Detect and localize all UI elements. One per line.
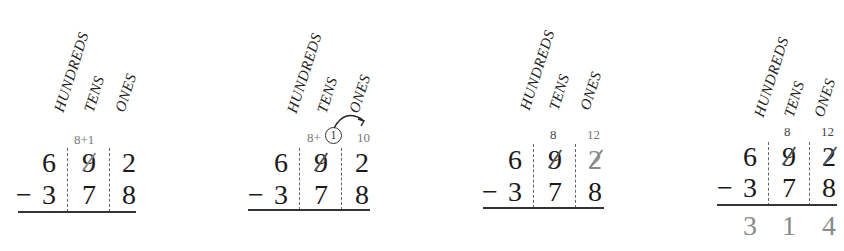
minuend-hundreds: 6 bbox=[37, 149, 61, 177]
ones-annotation: 10 bbox=[357, 131, 370, 144]
subtrahend-ones: 8 bbox=[583, 178, 607, 206]
minuend-hundreds: 6 bbox=[269, 149, 293, 177]
tens-borrow-prefix: 8+ bbox=[307, 131, 321, 144]
step-4-panel: HUNDREDS TENS ONES 8 12 6 9 2 − 3 7 8 3 … bbox=[633, 0, 844, 251]
answer-rule bbox=[717, 204, 837, 206]
ones-annotation: 12 bbox=[587, 128, 600, 141]
subtrahend-hundreds: 3 bbox=[503, 178, 527, 206]
minuend-hundreds: 6 bbox=[503, 146, 527, 174]
answer-rule bbox=[18, 211, 136, 213]
column-divider-2 bbox=[809, 142, 810, 206]
header-tens: TENS bbox=[82, 74, 108, 114]
column-divider-2 bbox=[341, 148, 342, 210]
subtrahend-tens: 7 bbox=[543, 178, 567, 206]
answer-rule bbox=[248, 209, 370, 211]
subtrahend-ones: 8 bbox=[117, 181, 141, 209]
difference-hundreds: 3 bbox=[738, 212, 762, 240]
tens-annotation: 8 bbox=[784, 125, 791, 138]
minuend-ones: 2 bbox=[350, 149, 374, 177]
difference-ones: 4 bbox=[817, 212, 841, 240]
minuend-hundreds: 6 bbox=[738, 143, 762, 171]
step-2-panel: HUNDREDS TENS ONES 8+ 1 10 6 9 2 − 3 7 8 bbox=[211, 0, 422, 251]
header-tens: TENS bbox=[782, 79, 808, 119]
tens-annotation: 8 bbox=[550, 128, 557, 141]
column-divider-1 bbox=[67, 148, 68, 212]
minus-sign: − bbox=[248, 181, 264, 209]
header-ones: ONES bbox=[812, 77, 838, 119]
minuend-ones: 2 bbox=[117, 149, 141, 177]
minus-sign: − bbox=[717, 174, 733, 202]
header-ones: ONES bbox=[113, 72, 139, 114]
circled-one-icon: 1 bbox=[325, 127, 342, 144]
minus-sign: − bbox=[482, 178, 498, 206]
header-ones: ONES bbox=[578, 70, 604, 112]
subtrahend-ones: 8 bbox=[350, 181, 374, 209]
tens-borrow-annotation: 8+1 bbox=[74, 133, 94, 146]
column-divider-1 bbox=[299, 148, 300, 210]
step-3-panel: HUNDREDS TENS ONES 8 12 6 9 2 − 3 7 8 bbox=[422, 0, 633, 251]
subtrahend-tens: 7 bbox=[77, 181, 101, 209]
column-divider-2 bbox=[575, 144, 576, 208]
subtrahend-hundreds: 3 bbox=[269, 181, 293, 209]
column-divider-1 bbox=[768, 142, 769, 206]
subtrahend-hundreds: 3 bbox=[37, 181, 61, 209]
header-tens: TENS bbox=[547, 72, 573, 112]
subtrahend-hundreds: 3 bbox=[738, 174, 762, 202]
step-1-panel: HUNDREDS TENS ONES 8+1 6 9 2 − 3 7 8 bbox=[0, 0, 211, 251]
difference-tens: 1 bbox=[777, 212, 801, 240]
ones-annotation: 12 bbox=[821, 125, 834, 138]
column-divider-1 bbox=[533, 144, 534, 208]
subtrahend-tens: 7 bbox=[309, 181, 333, 209]
subtrahend-tens: 7 bbox=[777, 174, 801, 202]
column-divider-2 bbox=[109, 148, 110, 212]
subtrahend-ones: 8 bbox=[817, 174, 841, 202]
answer-rule bbox=[483, 207, 604, 209]
minus-sign: − bbox=[16, 181, 32, 209]
